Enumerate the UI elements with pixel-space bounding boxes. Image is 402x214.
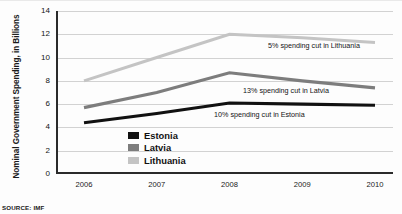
source-note: SOURCE: IMF (2, 204, 45, 211)
legend-label: Estonia (144, 130, 178, 141)
y-tick-label: 4 (26, 123, 50, 131)
legend-item-lithuania: Lithuania (128, 154, 186, 167)
y-tick-label: 6 (26, 100, 50, 108)
y-tick-label: 8 (26, 77, 50, 85)
x-tick-label: 2007 (127, 180, 187, 189)
y-tick-label: 10 (26, 54, 50, 62)
figure-top-rule (0, 0, 402, 1)
x-tick-label: 2009 (272, 180, 332, 189)
legend-item-latvia: Latvia (128, 142, 186, 155)
y-axis-title: Nominal Government Spending, in Billions (12, 12, 21, 182)
annotation-lithuania: 5% spending cut in Lithuania (268, 41, 360, 50)
chart-figure: Nominal Government Spending, in Billions… (0, 0, 402, 214)
legend-swatch-icon (128, 157, 139, 164)
x-tick-label: 2006 (54, 180, 114, 189)
legend-swatch-icon (128, 144, 139, 151)
annotation-estonia: 10% spending cut in Estonia (214, 110, 305, 119)
series-lines (56, 11, 393, 174)
x-tick-label: 2008 (200, 180, 260, 189)
legend-item-estonia: Estonia (128, 129, 186, 142)
plot-area: 02468101214 (56, 11, 393, 174)
annotation-latvia: 13% spending cut in Latvia (243, 86, 329, 95)
legend-label: Latvia (144, 142, 171, 153)
x-tick-label: 2010 (345, 180, 402, 189)
chart-legend: EstoniaLatviaLithuania (128, 129, 186, 167)
legend-swatch-icon (128, 132, 139, 139)
y-tick-label: 12 (26, 30, 50, 38)
y-tick-label: 0 (26, 170, 50, 178)
y-tick-label: 2 (26, 147, 50, 155)
legend-label: Lithuania (144, 155, 186, 166)
y-tick-label: 14 (26, 7, 50, 15)
